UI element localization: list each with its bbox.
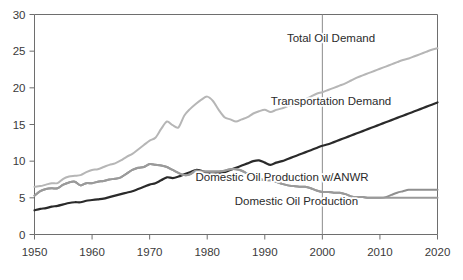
x-tick-label: 1970 [137, 246, 163, 258]
chart-background [0, 0, 463, 280]
x-tick-label: 2000 [310, 246, 336, 258]
x-tick-label: 1980 [194, 246, 220, 258]
y-tick-label: 5 [19, 192, 25, 204]
series-annotation-label: Domestic Oil Production w/ANWR [195, 171, 368, 183]
chart-container: 051015202530 195019601970198019902000201… [0, 0, 463, 280]
x-tick-label: 2010 [367, 246, 393, 258]
y-tick-label: 20 [13, 82, 26, 94]
x-tick-label: 2020 [425, 246, 451, 258]
x-tick-label: 1990 [252, 246, 278, 258]
y-tick-label: 30 [13, 9, 26, 21]
y-tick-label: 15 [13, 119, 26, 131]
x-tick-label: 1960 [79, 246, 105, 258]
series-annotation-label: Transportation Demand [271, 95, 391, 107]
x-tick-label: 1950 [22, 246, 48, 258]
series-annotation-label: Domestic Oil Production [235, 195, 358, 207]
y-tick-label: 0 [19, 229, 25, 241]
y-tick-label: 25 [13, 45, 26, 57]
line-chart: 051015202530 195019601970198019902000201… [0, 0, 463, 280]
y-tick-label: 10 [13, 155, 26, 167]
series-annotation-label: Total Oil Demand [287, 32, 375, 44]
